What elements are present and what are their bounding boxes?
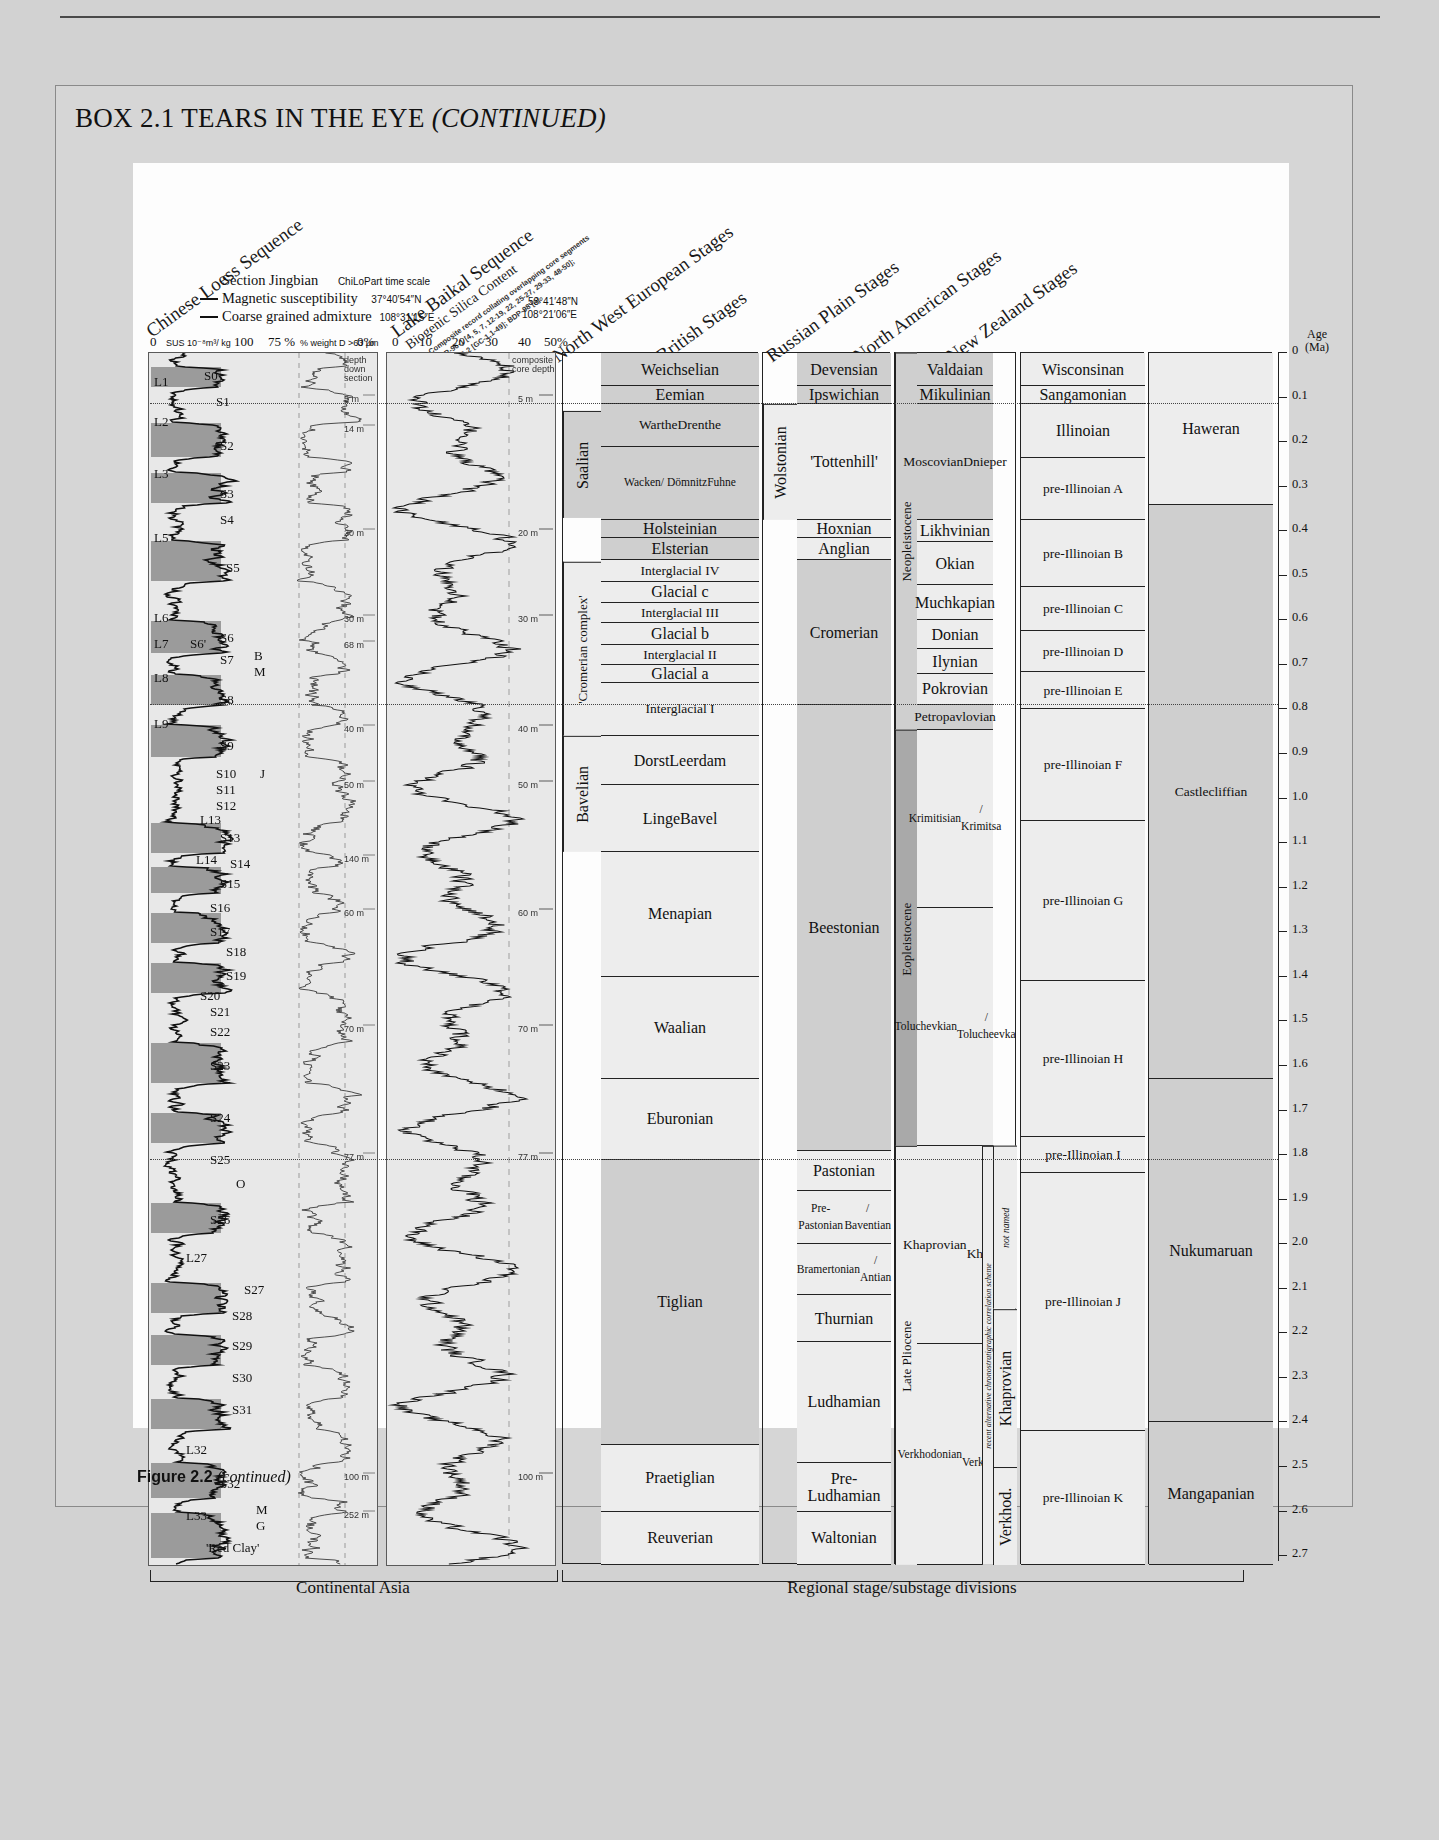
stage-cell[interactable]: Mangapanian <box>1149 1422 1273 1565</box>
correlation-line <box>150 1159 1278 1160</box>
age-tick <box>1278 1065 1287 1066</box>
stage-cell[interactable]: Eburonian <box>601 1079 759 1159</box>
legend-timescale: ChiLoPart time scale <box>338 276 430 287</box>
stage-cell[interactable]: Anglian <box>797 538 891 560</box>
stage-cell[interactable]: Castlecliffian <box>1149 505 1273 1080</box>
stage-cell[interactable]: Okian <box>917 542 993 584</box>
stage-cell[interactable]: Waltonian <box>797 1512 891 1565</box>
age-tick <box>1278 798 1287 799</box>
stage-cell[interactable]: Mikulinian <box>917 386 993 404</box>
stage-cell[interactable]: pre-Illinoian D <box>1021 631 1145 671</box>
loess-unit-label: S17 <box>210 924 230 940</box>
stage-cell[interactable]: pre-Illinoian C <box>1021 587 1145 632</box>
loess-unit-label: M <box>254 664 266 680</box>
stage-cell[interactable]: Saalian <box>563 411 601 518</box>
stage-cell[interactable]: Beestonian <box>797 705 891 1151</box>
stage-cell[interactable]: LingeBavel <box>601 785 759 852</box>
stage-cell[interactable]: Reuverian <box>601 1512 759 1565</box>
loess-unit-label: S27 <box>244 1282 264 1298</box>
stage-cell[interactable]: 'Cromerian complex' <box>563 562 601 736</box>
stage-cell[interactable]: Bavelian <box>563 736 601 852</box>
legend-line-swatch-ms <box>200 298 218 300</box>
stage-cell[interactable]: Pre-Pastonian/ Baventian <box>797 1191 891 1244</box>
stage-cell[interactable]: Waalian <box>601 977 759 1079</box>
loess-unit-label: S23 <box>210 1058 230 1074</box>
stage-cell[interactable]: Glacial c <box>601 582 759 602</box>
stage-cell[interactable]: Hoxnian <box>797 520 891 538</box>
stage-cell[interactable]: Ludhamian <box>797 1342 891 1462</box>
stage-cell[interactable]: Bramertonian/ Antian <box>797 1244 891 1295</box>
stage-cell[interactable]: Likhvinian <box>917 520 993 542</box>
stage-cell[interactable]: Weichselian <box>601 353 759 386</box>
baikal-lat: 53°41′48″N <box>528 296 578 307</box>
stage-cell[interactable]: Devensian <box>797 353 891 386</box>
stage-cell[interactable]: Interglacial III <box>601 603 759 623</box>
loess-unit-label: S20 <box>200 988 220 1004</box>
loess-unit-label: L33 <box>186 1508 207 1524</box>
stage-cell[interactable]: WartheDrenthe <box>601 404 759 446</box>
stage-cell[interactable]: Late Pliocene <box>895 1146 917 1565</box>
stage-cell[interactable]: pre-Illinoian J <box>1021 1173 1145 1431</box>
stage-cell[interactable]: Khaprovian <box>993 1309 1017 1467</box>
stage-cell[interactable]: Ipswichian <box>797 386 891 404</box>
age-tick-label: 2.1 <box>1292 1279 1308 1294</box>
stage-cell[interactable]: Neopleistocene <box>895 353 917 730</box>
stage-cell[interactable]: Pre-Ludhamian <box>797 1463 891 1512</box>
stage-cell[interactable]: Thurnian <box>797 1295 891 1342</box>
stage-cell[interactable]: MoscovianDnieper <box>917 404 993 520</box>
stage-cell[interactable]: pre-Illinoian B <box>1021 520 1145 587</box>
baikal-depth-tick-label: 70 m <box>518 1024 538 1034</box>
stage-cell[interactable]: pre-Illinoian A <box>1021 458 1145 520</box>
stage-cell[interactable]: Glacial a <box>601 665 759 683</box>
stage-cell[interactable]: pre-Illinoian K <box>1021 1431 1145 1565</box>
stage-cell[interactable]: Cromerian <box>797 560 891 705</box>
stage-cell[interactable]: Petropavlovian <box>917 705 993 730</box>
stage-cell[interactable]: Illinoian <box>1021 404 1145 457</box>
stage-cell[interactable]: Interglacial IV <box>601 560 759 582</box>
stage-cell[interactable]: Interglacial II <box>601 645 759 665</box>
stage-cell[interactable]: pre-Illinoian F <box>1021 709 1145 820</box>
stage-cell[interactable]: pre-Illinoian G <box>1021 821 1145 981</box>
stage-cell[interactable]: Verkhod. <box>993 1467 1017 1565</box>
stage-cell[interactable]: Muchkapian <box>917 585 993 621</box>
age-tick <box>1278 708 1287 709</box>
stage-cell[interactable]: pre-Illinoian I <box>1021 1137 1145 1173</box>
stage-cell[interactable]: Praetiglian <box>601 1445 759 1512</box>
stage-cell[interactable]: Krimitisian/ Krimitsa <box>917 730 993 908</box>
loess-depth-tick-label: 40 m <box>344 724 364 734</box>
stage-cell[interactable]: Interglacial I <box>601 683 759 736</box>
stage-cell[interactable]: Wisconsinan <box>1021 353 1145 386</box>
stage-cell[interactable]: Glacial b <box>601 623 759 645</box>
stage-cell[interactable]: Toluchevkian/ Tolucheevka <box>917 908 993 1146</box>
stage-cell[interactable]: 'Tottenhill' <box>797 404 891 520</box>
loess-unit-label: M <box>256 1502 268 1518</box>
stage-cell[interactable]: Wacken/ DömnitzFuhne <box>601 447 759 521</box>
stage-cell[interactable]: Ilynian <box>917 649 993 674</box>
baikal-depth-note: compositecore depth <box>512 356 555 374</box>
loess-unit-label: S11 <box>216 782 236 798</box>
loess-unit-label: L8 <box>154 670 168 686</box>
stage-cell[interactable]: Donian <box>917 620 993 649</box>
stage-cell[interactable]: pre-Illinoian H <box>1021 981 1145 1137</box>
age-tick-label: 1.2 <box>1292 878 1308 893</box>
age-axis-title: Age(Ma) <box>1295 328 1339 354</box>
stage-cell[interactable]: Elsterian <box>601 538 759 560</box>
stage-cell[interactable]: Tiglian <box>601 1160 759 1445</box>
stage-cell[interactable]: Valdaian <box>917 353 993 386</box>
stage-cell[interactable]: Eopleistocene <box>895 730 917 1147</box>
stage-cell[interactable]: Haweran <box>1149 353 1273 505</box>
stage-cell[interactable]: DorstLeerdam <box>601 736 759 785</box>
stage-cell[interactable]: Pastonian <box>797 1151 891 1191</box>
stage-cell[interactable]: not named <box>993 1146 1017 1309</box>
stage-cell[interactable]: Holsteinian <box>601 520 759 538</box>
stage-cell[interactable]: Eemian <box>601 386 759 404</box>
axis-loess-left-zero: 0 <box>150 334 157 350</box>
stage-cell[interactable]: Pokrovian <box>917 674 993 705</box>
stage-cell[interactable]: Wolstonian <box>763 404 797 520</box>
stage-cell[interactable]: Menapian <box>601 852 759 977</box>
loess-depth-tick-label: 70 m <box>344 1024 364 1034</box>
stage-cell[interactable]: Sangamonian <box>1021 386 1145 404</box>
loess-unit-label: S10 <box>216 766 236 782</box>
loess-depth-tick-label: 77 m <box>344 1152 364 1162</box>
stage-cell[interactable]: Nukumaruan <box>1149 1079 1273 1422</box>
